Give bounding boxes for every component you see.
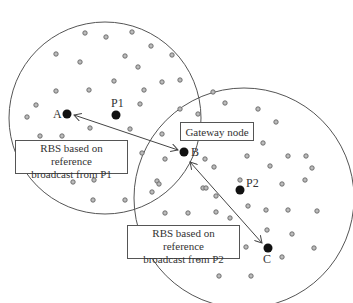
- sensor-node: [315, 209, 319, 213]
- sensor-node: [268, 164, 272, 168]
- sensor-node: [130, 30, 134, 34]
- sensor-node: [246, 204, 250, 208]
- sensor-node: [290, 232, 294, 236]
- region-p1-circle: [9, 22, 201, 214]
- node-p1: [112, 111, 121, 120]
- sensor-node: [78, 60, 82, 64]
- sensor-node: [223, 101, 227, 105]
- rbs-p1-line1: RBS based on reference: [20, 142, 123, 168]
- sensor-node: [256, 107, 260, 111]
- sensor-node: [157, 182, 161, 186]
- rbs-p2-line1: RBS based on reference: [132, 227, 235, 253]
- sensor-node: [304, 154, 308, 158]
- sensor-node: [60, 134, 64, 138]
- sensor-node: [150, 190, 154, 194]
- sensor-node: [136, 65, 140, 69]
- sensor-node: [238, 178, 242, 182]
- sensor-node: [303, 178, 307, 182]
- sensor-node: [217, 274, 221, 278]
- sensor-node: [211, 90, 215, 94]
- sensor-node: [142, 88, 146, 92]
- sensor-node: [54, 52, 58, 56]
- sensor-node: [88, 126, 92, 130]
- node-label-a: A: [53, 107, 62, 121]
- sensor-node: [123, 54, 127, 58]
- sensor-node: [123, 198, 127, 202]
- node-p2: [236, 186, 245, 195]
- sensor-node: [264, 208, 268, 212]
- gateway-node-label: Gateway node: [180, 122, 254, 141]
- sensor-node: [196, 112, 200, 116]
- node-label-c: C: [263, 252, 271, 266]
- sensor-node: [245, 154, 249, 158]
- gateway-label-text: Gateway node: [185, 126, 248, 138]
- sensor-node: [212, 165, 216, 169]
- node-label-p2: P2: [246, 176, 259, 190]
- sensor-node: [170, 53, 174, 57]
- sensor-node: [54, 89, 58, 93]
- sensor-node: [34, 103, 38, 107]
- sensor-node: [140, 151, 144, 155]
- sensor-node: [163, 211, 167, 215]
- sensor-node: [280, 182, 284, 186]
- sensor-node: [163, 157, 167, 161]
- sensor-node: [203, 157, 207, 161]
- sensor-node: [286, 154, 290, 158]
- sensor-node: [312, 246, 316, 250]
- sensor-node: [160, 132, 164, 136]
- rbs-p2-label: RBS based on reference broadcast from P2: [127, 225, 240, 259]
- sensor-node: [310, 166, 314, 170]
- rbs-p1-line2: broadcast from P1: [20, 168, 123, 181]
- sensor-node: [104, 35, 108, 39]
- sensor-node: [112, 79, 116, 83]
- node-label-p1: P1: [111, 96, 124, 110]
- sensor-node: [91, 198, 95, 202]
- sensor-node: [214, 210, 218, 214]
- sensor-node: [214, 194, 218, 198]
- node-label-b: B: [191, 145, 199, 159]
- region-p2-circle: [134, 88, 353, 303]
- sensor-node: [265, 228, 269, 232]
- sensor-node: [204, 186, 208, 190]
- sensor-node: [160, 80, 164, 84]
- sensor-node: [25, 115, 29, 119]
- rbs-p1-label: RBS based on reference broadcast from P1: [15, 140, 128, 174]
- sensor-node: [244, 245, 248, 249]
- sensor-node: [280, 255, 284, 259]
- sensor-node: [261, 141, 265, 145]
- sensor-node: [249, 274, 253, 278]
- sensor-node: [178, 107, 182, 111]
- sensor-node: [38, 134, 42, 138]
- sensor-node: [149, 44, 153, 48]
- sensor-node: [83, 31, 87, 35]
- sensor-node: [286, 208, 290, 212]
- node-a: [63, 110, 72, 119]
- sensor-node: [87, 88, 91, 92]
- node-b: [180, 148, 189, 157]
- sensor-node: [178, 78, 182, 82]
- sensor-node: [228, 216, 232, 220]
- sensor-node: [128, 127, 132, 131]
- sensor-node: [186, 211, 190, 215]
- rbs-p2-line2: broadcast from P2: [132, 253, 235, 266]
- sensor-node: [274, 120, 278, 124]
- sensor-node: [138, 102, 142, 106]
